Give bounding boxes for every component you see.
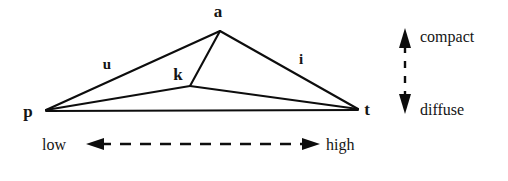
edge-p-k — [46, 86, 190, 110]
horizontal-axis-right-arrowhead — [302, 138, 320, 150]
edge-p-a — [46, 31, 220, 110]
vertical-axis-diffuse-label: diffuse — [420, 101, 464, 118]
vertex-label-t: t — [364, 100, 370, 119]
edge-p-t — [46, 110, 358, 111]
edge-k-t — [190, 86, 358, 109]
edge-a-t — [220, 31, 358, 109]
diagram-svg: a p t k u i low high compact diffuse — [0, 0, 508, 181]
vertical-axis: compact diffuse — [399, 28, 475, 118]
vertical-axis-compact-label: compact — [420, 28, 475, 46]
vertex-label-p: p — [23, 102, 32, 121]
horizontal-axis-high-label: high — [326, 136, 354, 154]
horizontal-axis-left-arrowhead — [86, 138, 104, 150]
vertex-label-k: k — [173, 65, 183, 84]
edge-group — [46, 31, 358, 111]
edge-label-u: u — [103, 56, 111, 72]
edge-a-k — [190, 31, 220, 86]
edge-label-i: i — [299, 51, 303, 67]
diagram-canvas: a p t k u i low high compact diffuse — [0, 0, 508, 181]
vertex-label-a: a — [214, 2, 223, 21]
horizontal-axis: low high — [42, 136, 354, 154]
vertical-axis-down-arrowhead — [399, 94, 411, 114]
horizontal-axis-low-label: low — [42, 136, 66, 153]
vertical-axis-up-arrowhead — [399, 28, 411, 48]
